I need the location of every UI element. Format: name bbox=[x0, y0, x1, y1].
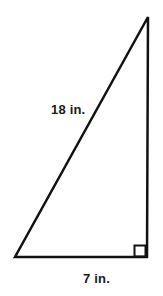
triangle-outline bbox=[15, 17, 148, 257]
base-length-label: 7 in. bbox=[83, 272, 110, 286]
right-triangle-figure: 18 in. 7 in. bbox=[0, 0, 163, 296]
triangle-drawing bbox=[0, 0, 163, 296]
hypotenuse-length-label: 18 in. bbox=[51, 103, 85, 117]
